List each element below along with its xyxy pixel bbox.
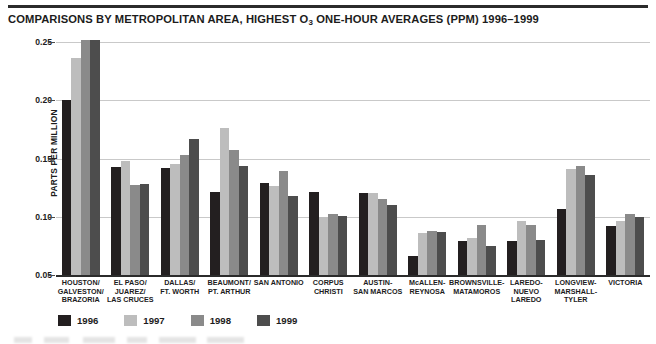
bar (387, 205, 397, 275)
bar (328, 214, 338, 275)
bar-group (260, 42, 298, 275)
bar (121, 161, 131, 275)
bar (368, 193, 378, 275)
chart-title-tail: ONE-HOUR AVERAGES (PPM) 1996–1999 (313, 13, 539, 25)
bar (427, 231, 437, 275)
legend-label: 1996 (77, 315, 98, 326)
bar (189, 139, 199, 275)
bar (635, 217, 645, 275)
legend-item[interactable]: 1996 (58, 315, 98, 326)
bar (576, 166, 586, 276)
legend-item[interactable]: 1997 (124, 315, 164, 326)
bar-group (408, 42, 446, 275)
bar (229, 150, 239, 275)
x-category-label-line: TYLER (547, 296, 605, 305)
bar (359, 193, 369, 275)
bar (170, 164, 180, 275)
bar (161, 168, 171, 275)
bar (517, 221, 527, 275)
legend-label: 1999 (276, 315, 297, 326)
y-tick-mark (48, 275, 55, 276)
legend-swatch (191, 315, 204, 326)
legend-label: 1997 (143, 315, 164, 326)
bar (458, 241, 468, 275)
bar-group (359, 42, 397, 275)
legend-item[interactable]: 1999 (257, 315, 297, 326)
bar (625, 214, 635, 275)
bar-group (161, 42, 199, 275)
bar (536, 240, 546, 275)
x-category-label-line: VICTORIA (597, 279, 655, 288)
chart-title: COMPARISONS BY METROPOLITAN AREA, HIGHES… (8, 13, 648, 25)
bar-group (557, 42, 595, 275)
y-axis: PARTS PER MILLION 0.250.200.150.100.05 (8, 0, 52, 344)
bar (319, 217, 329, 275)
bar-group (507, 42, 545, 275)
bar (526, 225, 536, 275)
bar (309, 192, 319, 275)
bar (477, 225, 487, 275)
bar (180, 155, 190, 275)
legend-swatch (58, 315, 71, 326)
bar (140, 184, 150, 275)
bar (220, 128, 230, 275)
bar (566, 169, 576, 275)
bar-group (62, 42, 100, 275)
legend-label: 1998 (210, 315, 231, 326)
bar (210, 192, 220, 275)
bar (486, 246, 496, 275)
bar (130, 185, 140, 275)
x-category-label-line: LAS CRUCES (102, 296, 160, 305)
bar (71, 58, 81, 275)
bar (467, 238, 477, 275)
chart-title-main: COMPARISONS BY METROPOLITAN AREA, HIGHES… (8, 13, 308, 25)
bar (437, 232, 447, 275)
bar (279, 171, 289, 275)
bar (239, 166, 249, 276)
bar (111, 167, 121, 275)
x-category-label: VICTORIA (597, 279, 655, 288)
bar (288, 196, 298, 275)
legend: 1996199719981999 (58, 313, 323, 327)
bar (338, 216, 348, 275)
bar (378, 199, 388, 275)
page-footer-artifact (14, 337, 244, 343)
bar (408, 256, 418, 275)
y-tick-mark (48, 159, 55, 160)
legend-item[interactable]: 1998 (191, 315, 231, 326)
plot-area (56, 42, 650, 275)
bar (557, 209, 567, 275)
bar-group (111, 42, 149, 275)
header-rule (8, 5, 648, 8)
y-tick-mark (48, 100, 55, 101)
bar (585, 175, 595, 275)
bar (606, 226, 616, 275)
bar (260, 183, 270, 275)
bar-group (606, 42, 644, 275)
bar (90, 40, 100, 275)
bar (507, 241, 517, 275)
x-axis-line (56, 275, 650, 277)
bar-group (458, 42, 496, 275)
y-tick-mark (48, 217, 55, 218)
legend-swatch (124, 315, 137, 326)
bar (418, 233, 428, 275)
bar-group (210, 42, 248, 275)
bar (269, 186, 279, 275)
bar (81, 40, 91, 275)
x-category-label-line: PT. ARTHUR (201, 288, 259, 297)
bar-group (309, 42, 347, 275)
chart-title-subscript: 3 (308, 18, 313, 27)
y-tick-mark (48, 42, 55, 43)
bar (62, 100, 72, 275)
legend-swatch (257, 315, 270, 326)
bar (616, 221, 626, 275)
